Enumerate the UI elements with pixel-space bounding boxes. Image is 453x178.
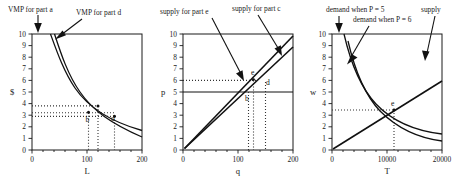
- point-label-e-3: e: [391, 99, 395, 108]
- curve-vmp-part-a: [51, 34, 143, 131]
- x-axis-label-3: T: [384, 166, 390, 176]
- svg-text:100: 100: [81, 155, 92, 164]
- annotation-supply-3: supply: [421, 5, 441, 14]
- svg-text:0: 0: [181, 155, 185, 164]
- annotation-supply-part-c: supply for part c: [232, 4, 281, 13]
- svg-text:10: 10: [319, 30, 327, 39]
- chart-panel-1: VMP for part a VMP for part d: [0, 0, 151, 178]
- x-axis-labels-2: 0 100 200: [181, 155, 299, 164]
- arrow-supply-part-c: [258, 15, 282, 56]
- y-axis-labels-2: 0 1 2 3 4 5 6 7 8 9 10: [170, 30, 178, 155]
- svg-text:8: 8: [173, 53, 177, 62]
- svg-text:0: 0: [30, 155, 34, 164]
- svg-text:5: 5: [322, 88, 326, 97]
- annotation-vmp-part-a: VMP for part a: [8, 5, 53, 14]
- svg-text:9: 9: [22, 41, 26, 50]
- svg-text:8: 8: [22, 53, 26, 62]
- svg-text:5: 5: [22, 88, 26, 97]
- annotation-vmp-part-d: VMP for part d: [76, 8, 121, 17]
- svg-text:7: 7: [22, 64, 26, 73]
- annotation-supply-part-e: supply for part e: [160, 7, 209, 16]
- svg-text:2: 2: [173, 122, 177, 131]
- svg-text:0: 0: [322, 146, 326, 155]
- y-axis-labels-3: 0 1 2 3 4 5 6 7 8 9 10: [319, 30, 327, 155]
- curve-demand-p6: [348, 41, 442, 141]
- y-axis-label-3: w: [310, 87, 317, 97]
- y-axis-ticks-1: [29, 34, 33, 150]
- svg-text:0: 0: [173, 146, 177, 155]
- x-axis-label-2: q: [236, 166, 241, 176]
- point-label-d-1: d: [111, 114, 115, 123]
- svg-text:9: 9: [322, 41, 326, 50]
- reference-lines-2: [183, 80, 266, 150]
- svg-text:7: 7: [322, 64, 326, 73]
- x-axis-ticks-1: [32, 150, 142, 154]
- line-supply-3: [333, 81, 442, 149]
- svg-text:4: 4: [322, 99, 326, 108]
- svg-text:100: 100: [232, 155, 243, 164]
- svg-text:4: 4: [22, 99, 26, 108]
- x-axis-label-1: L: [84, 166, 89, 176]
- svg-text:1: 1: [322, 134, 326, 143]
- svg-text:6: 6: [322, 76, 326, 85]
- x-axis-ticks-2: [183, 150, 293, 154]
- svg-text:5: 5: [173, 88, 177, 97]
- arrow-vmp-part-a: [34, 15, 42, 33]
- svg-text:1: 1: [173, 134, 177, 143]
- y-axis-label-1: $: [10, 87, 15, 97]
- y-axis-labels-1: 0 1 2 3 4 5 6 7 8 9 10: [19, 30, 27, 155]
- reference-lines-1: [32, 106, 115, 150]
- svg-text:3: 3: [22, 111, 26, 120]
- x-axis-labels-3: 0 10000 20000: [330, 155, 451, 164]
- y-axis-ticks-3: [329, 34, 333, 150]
- plot-frame-1: [32, 34, 142, 150]
- chart-panel-3: demand when P = 5 demand when P = 6 supp…: [301, 0, 453, 178]
- svg-text:3: 3: [322, 111, 326, 120]
- svg-text:8: 8: [322, 53, 326, 62]
- chart-panel-2: supply for part e supply for part c: [150, 0, 302, 178]
- arrow-demand-p5: [335, 16, 343, 33]
- arrow-vmp-part-d: [55, 19, 82, 40]
- svg-text:10: 10: [19, 30, 27, 39]
- svg-text:0: 0: [22, 146, 26, 155]
- point-markers-2: [252, 78, 255, 81]
- x-axis-ticks-3: [332, 150, 442, 154]
- line-supply-part-c: [185, 47, 294, 149]
- annotation-demand-p5: demand when P = 5: [326, 5, 385, 14]
- point-label-d-2: d: [266, 78, 270, 87]
- svg-text:2: 2: [322, 122, 326, 131]
- svg-text:200: 200: [287, 155, 298, 164]
- figure-sheet: VMP for part a VMP for part d: [0, 0, 453, 178]
- annotation-demand-p6: demand when P = 6: [353, 15, 412, 24]
- svg-text:10000: 10000: [378, 155, 397, 164]
- svg-text:10: 10: [170, 30, 178, 39]
- arrow-supply-3: [422, 16, 435, 61]
- curve-demand-p5: [344, 34, 442, 134]
- svg-text:1: 1: [22, 134, 26, 143]
- arrow-supply-part-e: [212, 18, 244, 81]
- svg-text:4: 4: [173, 99, 177, 108]
- svg-text:0: 0: [330, 155, 334, 164]
- y-axis-label-2: p: [161, 87, 165, 97]
- point-label-b-1: b: [86, 115, 90, 124]
- svg-text:20000: 20000: [433, 155, 452, 164]
- svg-text:7: 7: [173, 64, 177, 73]
- svg-text:2: 2: [22, 122, 26, 131]
- svg-text:6: 6: [173, 76, 177, 85]
- point-label-b-2: b: [245, 94, 249, 103]
- svg-text:6: 6: [22, 76, 26, 85]
- point-markers-3: [393, 109, 396, 112]
- x-axis-labels-1: 0 100 200: [30, 155, 148, 164]
- y-axis-ticks-2: [180, 34, 184, 150]
- svg-text:3: 3: [173, 111, 177, 120]
- svg-text:200: 200: [136, 155, 147, 164]
- svg-text:9: 9: [173, 41, 177, 50]
